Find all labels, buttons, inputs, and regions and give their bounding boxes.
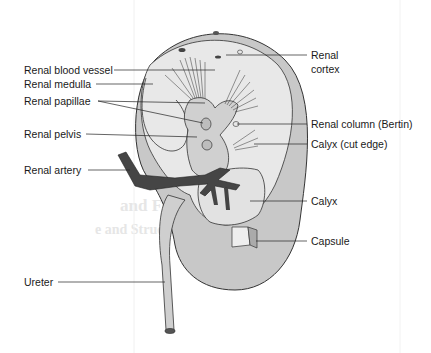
label-renal-column: Renal column (Bertin) [311,118,413,130]
label-renal-cortex-line2: cortex [311,63,340,75]
label-calyx: Calyx [311,195,337,207]
kidney-illustration [0,0,431,353]
papilla-2 [202,140,212,150]
label-renal-cortex-line1: Renal [311,49,338,61]
papilla-1 [201,118,211,130]
label-renal-artery: Renal artery [24,164,81,176]
label-renal-medulla: Renal medulla [24,78,91,90]
label-renal-blood-vessel: Renal blood vessel [24,64,113,76]
label-capsule: Capsule [311,235,350,247]
label-ureter: Ureter [24,276,53,288]
capsule-flap [232,227,250,247]
label-calyx-cut-edge: Calyx (cut edge) [311,138,387,150]
kidney-diagram: and Function e and Structure [0,0,431,353]
label-renal-papillae: Renal papillae [24,95,91,107]
label-renal-pelvis: Renal pelvis [24,128,81,140]
